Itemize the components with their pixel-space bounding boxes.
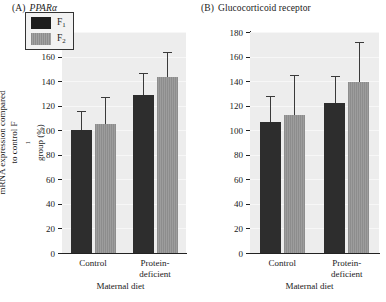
y-axis-tick-label: 100 [42, 126, 56, 135]
y-axis-tick: 140 [246, 81, 250, 82]
error-bar [167, 52, 168, 78]
y-axis-tick: 180 [246, 32, 250, 33]
y-axis-title: mRNA expression compared to control F1 g… [8, 32, 34, 253]
y-axis-tick: 160 [246, 57, 250, 58]
y-axis-tick: 120 [58, 106, 62, 107]
error-bar [105, 97, 106, 124]
panel-a-ppar-alpha: (A)PPARα mRNA expression compared to con… [0, 0, 193, 302]
y-axis-title-line2-sub: 1 [24, 141, 31, 144]
y-axis-tick: 0 [58, 253, 62, 254]
y-axis-tick-label: 140 [42, 77, 56, 86]
x-axis-title-a: Maternal diet [0, 282, 193, 291]
legend: F1 F2 [25, 12, 74, 50]
y-axis-tick-label: 180 [230, 28, 244, 37]
error-bar-cap [355, 42, 364, 43]
error-bar-cap [266, 96, 275, 97]
figure-two-panel-bar-chart: (A)PPARα mRNA expression compared to con… [0, 0, 386, 302]
legend-label-f2: F2 [57, 34, 66, 44]
error-bar [270, 96, 271, 122]
panel-b-title: (B)Glucocorticoid receptor [201, 3, 311, 13]
x-axis-category-label-line: deficient [307, 269, 386, 280]
legend-label-f1-sub: 1 [62, 20, 65, 27]
y-axis-tick-label: 120 [230, 102, 244, 111]
bar-f2-protein-deficient [157, 77, 178, 253]
y-axis-tick: 0 [246, 253, 250, 254]
y-axis-tick-label: 20 [234, 224, 243, 233]
x-axis-category-label: Protein-deficient [115, 258, 195, 280]
bar-f2-protein-deficient [348, 82, 369, 253]
y-axis-tick-label: 40 [234, 200, 243, 209]
error-bar [294, 75, 295, 116]
error-bar-cap [139, 73, 148, 74]
y-axis-tick-label: 40 [46, 200, 55, 209]
y-axis-tick-label: 20 [46, 224, 55, 233]
y-axis-tick: 120 [246, 106, 250, 107]
y-axis-tick-label: 160 [42, 53, 56, 62]
error-bar-cap [77, 111, 86, 112]
y-axis-tick-label: 60 [46, 175, 55, 184]
gridline [250, 32, 379, 33]
x-axis-line-b [250, 253, 380, 254]
error-bar-cap [163, 52, 172, 53]
y-axis-tick-label: 120 [42, 102, 56, 111]
bar-f2-control [284, 115, 305, 253]
y-axis-tick: 140 [58, 81, 62, 82]
error-bar [359, 42, 360, 83]
legend-label-f1: F1 [57, 18, 66, 28]
y-axis-tick-label: 80 [234, 151, 243, 160]
error-bar [81, 111, 82, 131]
panel-b-glucocorticoid-receptor: (B)Glucocorticoid receptor 0204060801001… [193, 0, 386, 302]
y-axis-title-line2-pre: to control F [8, 91, 20, 195]
y-axis-tick: 40 [246, 204, 250, 205]
legend-swatch-f2-icon [31, 33, 51, 45]
error-bar [335, 76, 336, 103]
gridline [62, 32, 186, 33]
error-bar [143, 73, 144, 95]
y-axis-title-line1: mRNA expression compared [0, 91, 8, 195]
legend-label-f2-sub: 2 [62, 36, 65, 43]
legend-item-f1: F1 [31, 17, 66, 29]
x-axis-title-b: Maternal diet [193, 282, 386, 291]
bar-f2-control [95, 124, 116, 253]
y-axis-tick: 160 [58, 57, 62, 58]
y-axis-tick-label: 160 [230, 53, 244, 62]
error-bar-cap [331, 76, 340, 77]
y-axis-tick-label: 100 [230, 126, 244, 135]
y-axis-tick-label: 0 [239, 249, 244, 258]
y-axis-tick: 60 [246, 179, 250, 180]
bar-f1-control [260, 122, 281, 253]
x-axis-category-label-line: Protein- [115, 258, 195, 269]
error-bar-cap [290, 75, 299, 76]
x-axis-line-a [62, 253, 187, 254]
y-axis-tick-label: 140 [230, 77, 244, 86]
panel-b-tag: (B) [201, 3, 214, 13]
y-axis-tick: 100 [246, 130, 250, 131]
bar-f1-protein-deficient [324, 103, 345, 253]
panel-b-title-text: Glucocorticoid receptor [218, 3, 311, 13]
y-axis-tick-label: 80 [46, 151, 55, 160]
y-axis-tick-label: 60 [234, 175, 243, 184]
y-axis-tick: 40 [58, 204, 62, 205]
error-bar-cap [101, 97, 110, 98]
legend-swatch-f1-icon [31, 17, 51, 29]
y-axis-title-line2: to control F1 group (%) [8, 91, 46, 195]
y-axis-tick: 80 [58, 155, 62, 156]
y-axis-tick: 60 [58, 179, 62, 180]
x-axis-category-label: Protein-deficient [307, 258, 386, 280]
bar-f1-protein-deficient [133, 95, 154, 253]
y-axis-tick: 80 [246, 155, 250, 156]
y-axis-tick: 20 [246, 228, 250, 229]
y-axis-tick-label: 0 [51, 249, 56, 258]
x-axis-category-label-line: Protein- [307, 258, 386, 269]
bar-f1-control [71, 130, 92, 253]
panel-a-tag: (A) [12, 3, 26, 13]
y-axis-tick: 20 [58, 228, 62, 229]
y-axis-tick: 100 [58, 130, 62, 131]
x-axis-category-label-line: deficient [115, 269, 195, 280]
legend-item-f2: F2 [31, 33, 66, 45]
